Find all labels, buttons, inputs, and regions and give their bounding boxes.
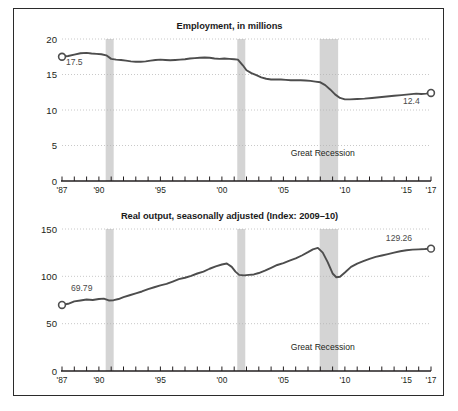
end-marker <box>428 245 435 252</box>
xtick-label-2: '95 <box>155 185 166 195</box>
xtick-label-4: '05 <box>278 185 289 195</box>
chart-panel-real-output: Real output, seasonally adjusted (Index:… <box>14 203 445 393</box>
xtick-label-0: '87 <box>57 185 68 195</box>
chart-panel-employment: Employment, in millions 05101520'87'90'9… <box>14 13 445 203</box>
ytick-label-1: 5 <box>52 140 57 151</box>
xtick-label-2: '95 <box>155 375 166 385</box>
ytick-label-1: 50 <box>46 318 57 329</box>
start-marker <box>59 53 66 60</box>
annotation-start-value: 69.79 <box>71 283 93 293</box>
ytick-label-2: 10 <box>46 105 57 116</box>
xtick-label-4: '05 <box>278 375 289 385</box>
annotation-recession-label: Great Recession <box>291 148 355 158</box>
xtick-label-7: '17 <box>426 375 437 385</box>
chart-plot-real-output: 050100150'87'90'95'00'05'10'15'1769.7912… <box>14 203 445 393</box>
xtick-label-5: '10 <box>339 375 350 385</box>
recession-band-0 <box>106 39 114 181</box>
end-marker <box>428 90 435 97</box>
ytick-label-4: 20 <box>46 34 57 45</box>
figure-frame: Employment, in millions 05101520'87'90'9… <box>13 8 444 396</box>
xtick-label-0: '87 <box>57 375 68 385</box>
annotation-recession-label: Great Recession <box>291 342 355 352</box>
recession-band-1 <box>237 229 245 371</box>
xtick-label-1: '90 <box>93 185 104 195</box>
xtick-label-5: '10 <box>339 185 350 195</box>
ytick-label-2: 100 <box>41 271 57 282</box>
data-line-real-output <box>62 248 431 305</box>
data-line-employment <box>62 53 431 100</box>
xtick-label-3: '00 <box>216 375 227 385</box>
ytick-label-3: 15 <box>46 69 57 80</box>
annotation-start-value: 17.5 <box>66 57 83 67</box>
xtick-label-6: '15 <box>401 375 412 385</box>
annotation-end-value: 129.26 <box>386 233 413 243</box>
start-marker <box>59 302 66 309</box>
xtick-label-3: '00 <box>216 185 227 195</box>
chart-plot-employment: 05101520'87'90'95'00'05'10'15'1717.512.4… <box>14 13 445 203</box>
ytick-label-3: 150 <box>41 224 57 235</box>
xtick-label-1: '90 <box>93 375 104 385</box>
xtick-label-7: '17 <box>426 185 437 195</box>
xtick-label-6: '15 <box>401 185 412 195</box>
annotation-end-value: 12.4 <box>403 96 420 106</box>
figure-container: Employment, in millions 05101520'87'90'9… <box>0 0 458 411</box>
